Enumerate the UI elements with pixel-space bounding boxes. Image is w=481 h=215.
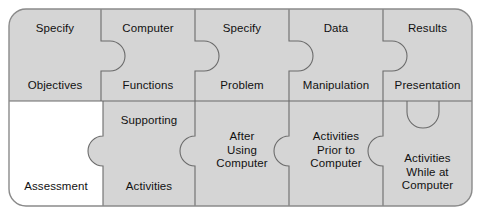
board-background bbox=[0, 0, 481, 215]
puzzle-svg bbox=[0, 0, 481, 215]
piece-assessment-fill bbox=[0, 101, 103, 215]
puzzle-diagram: Specify Objectives Computer Functions Sp… bbox=[0, 0, 481, 215]
